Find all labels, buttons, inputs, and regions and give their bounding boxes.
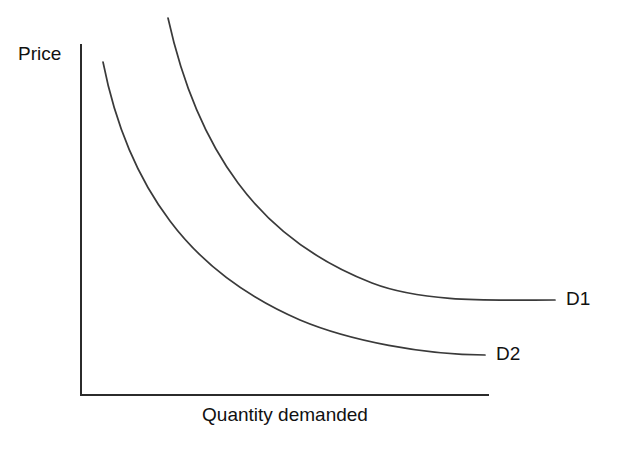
demand-curve-d1 (168, 18, 555, 300)
y-axis-label: Price (18, 43, 61, 64)
x-axis-label: Quantity demanded (202, 404, 368, 425)
curve-label-d2: D2 (496, 343, 520, 364)
demand-curve-diagram: Price Quantity demanded D1 D2 (0, 0, 621, 449)
curve-label-d1: D1 (566, 288, 590, 309)
demand-curve-d2 (103, 62, 485, 355)
